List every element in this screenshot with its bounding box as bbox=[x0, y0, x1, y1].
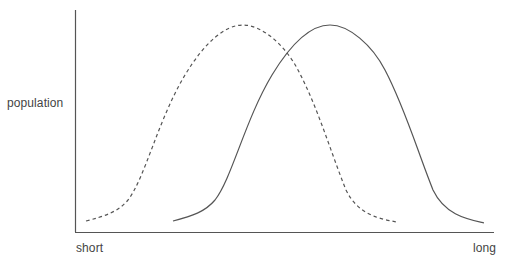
dashed-curve bbox=[86, 25, 397, 222]
y-axis-label: population bbox=[7, 96, 63, 110]
x-axis-max-label: long bbox=[473, 241, 496, 255]
distribution-diagram bbox=[0, 0, 506, 266]
x-axis-min-label: short bbox=[76, 241, 103, 255]
solid-curve bbox=[173, 25, 484, 223]
